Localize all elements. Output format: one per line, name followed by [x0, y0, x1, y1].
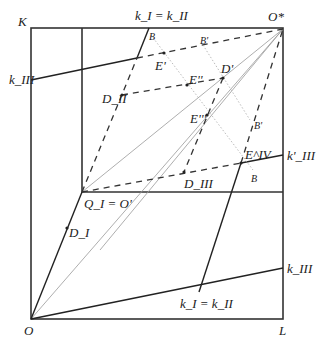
point-E-IV [239, 161, 242, 164]
label-O-star: O* [268, 9, 284, 24]
label-B-prime-right: B' [254, 120, 263, 131]
dash-Oprime-EIV [82, 163, 241, 192]
label-k-III-left: k_III [9, 72, 35, 87]
label-k-bottom: k_I = k_II [180, 296, 233, 311]
label-D-prime: D' [220, 61, 233, 76]
label-D-III: D_III [183, 176, 214, 191]
point-E-prime [162, 51, 165, 54]
label-E-triple: E''' [189, 111, 207, 126]
dotted-B-B [151, 35, 253, 170]
diagonal-inner [100, 29, 283, 250]
edgeworth-box-diagram: K O* O L k_I = k_II k_I = k_II k_III k_I… [0, 0, 317, 345]
label-k-III-prime: k'_III [287, 148, 316, 163]
dash-Oprime-k [82, 58, 137, 192]
label-Q-I-O-prime: Q_I = O' [84, 196, 132, 211]
curve-O-Oprime [31, 192, 82, 319]
label-D-I: D_I [68, 225, 90, 240]
point-D-prime [221, 76, 224, 79]
label-K: K [17, 14, 28, 29]
k-III-upper-line [31, 58, 137, 80]
label-L: L [278, 323, 286, 338]
diagonal-Oprime-Ostar [82, 29, 283, 192]
label-B-prime-top: B' [200, 35, 209, 46]
label-E-IV: E^IV [244, 147, 273, 162]
k-top-line [137, 28, 149, 58]
dash-DII-Dprime [122, 78, 223, 95]
label-k-III-right: k_III [287, 261, 313, 276]
label-O: O [24, 323, 34, 338]
label-B-bottom: B [251, 173, 257, 184]
point-D-III [182, 170, 185, 173]
label-B-top: B [149, 31, 155, 42]
label-E-double: E'' [188, 72, 203, 87]
dash-EIV-Ostar [241, 29, 283, 163]
label-E-prime: E' [154, 58, 166, 73]
label-k-top: k_I = k_II [135, 8, 188, 23]
label-D-II: D_II [101, 91, 127, 106]
